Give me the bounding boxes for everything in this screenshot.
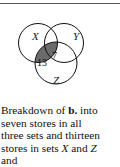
region-xz-value: 13 — [37, 57, 47, 68]
caption-line-2: seven stores in all — [1, 117, 120, 130]
figure-caption: Breakdown of b. into seven stores in all… — [1, 104, 120, 167]
set-x-label: X — [31, 30, 40, 42]
caption-line-1: Breakdown of b. into — [1, 104, 120, 117]
caption-line-4: stores in sets X and Z — [1, 142, 120, 155]
caption-line-5: and — [1, 154, 120, 167]
set-z-label: Z — [53, 74, 60, 86]
caption-line-3: three sets and thirteen — [1, 129, 120, 142]
region-xyz-value: 7 — [52, 50, 57, 61]
venn-diagram: X Y Z 7 13 — [0, 0, 120, 100]
